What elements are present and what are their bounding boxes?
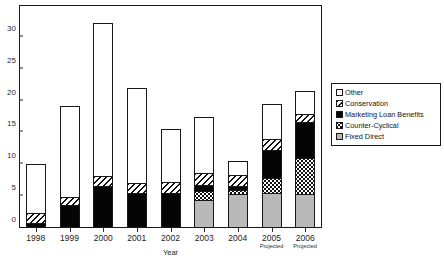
hatched-swatch [336,100,343,107]
legend-label: Marketing Loan Benefits [345,111,424,119]
legend-item: Fixed Direct [336,131,437,142]
bar-segment [61,107,79,198]
legend-item: Marketing Loan Benefits [336,109,437,120]
x-tick-label: 2000 [94,233,113,243]
legend-item: Counter-Cyclical [336,120,437,131]
bar-segment [162,183,180,194]
legend: OtherConservationMarketing Loan Benefits… [331,83,441,146]
white-swatch [336,89,343,96]
x-tick-label: 2004 [228,233,247,243]
bar-stack [93,23,113,228]
x-axis-title: Year [19,248,322,257]
bar-segment [94,24,112,177]
bar-segment [27,165,45,214]
bar-segment [27,224,45,227]
y-tick-label: 30 [7,25,16,33]
stacked-bar-chart: 05101520253035 1998199920002001200220032… [0,0,444,271]
x-tick-mark [204,228,205,232]
legend-label: Conservation [345,100,388,108]
bar-segment [128,89,146,184]
x-tick-label: 2003 [195,233,214,243]
bar-segment [128,194,146,227]
bar-segment [162,130,180,183]
bar-segment [195,174,213,185]
bar-segment [296,195,314,227]
x-tick-mark [70,228,71,232]
bar-segment [263,105,281,140]
bar-segment [128,184,146,194]
bar-stack [161,129,181,228]
bar-segment [296,92,314,115]
bar-stack [194,117,214,228]
bar-segment [263,140,281,151]
bar-segment [195,201,213,227]
gray-swatch [336,133,343,140]
bar-segment [296,159,314,195]
x-tick-label: 1999 [60,233,79,243]
legend-label: Other [345,89,363,97]
bar-segment [229,195,247,227]
x-tick-mark [238,228,239,232]
legend-label: Counter-Cyclical [345,122,399,130]
x-tick-mark [137,228,138,232]
legend-item: Other [336,87,437,98]
x-tick-label: 2002 [161,233,180,243]
y-tick-label: 0 [12,216,16,224]
y-tick-label: 10 [7,152,16,160]
x-tick-mark [36,228,37,232]
bar-stack [127,88,147,228]
x-tick-label: 2001 [127,233,146,243]
bar-stack [295,91,315,228]
y-tick-label: 35 [7,0,16,1]
dotted-swatch [336,122,343,129]
bar-segment [296,123,314,159]
legend-label: Fixed Direct [345,133,384,141]
bar-segment [94,177,112,186]
bar-segment [263,179,281,195]
bar-segment [27,214,45,224]
x-tick-mark [272,228,273,232]
bar-stack [262,104,282,228]
y-tick-label: 5 [12,184,16,192]
x-tick-mark [305,228,306,232]
bar-segment [229,162,247,176]
bar-segment [263,151,281,179]
legend-item: Conservation [336,98,437,109]
bar-segment [61,206,79,227]
bar-segment [229,176,247,188]
x-tick-label: 1998 [26,233,45,243]
bar-segment [195,192,213,201]
bar-stack [228,161,248,228]
bar-stack [60,106,80,228]
bar-segment [61,198,79,207]
bar-segment [296,115,314,124]
bar-segment [195,118,213,174]
bar-stack [26,164,46,228]
bar-segment [94,187,112,227]
y-tick-label: 25 [7,57,16,65]
bars-layer [19,5,322,228]
x-tick-mark [103,228,104,232]
x-tick-mark [171,228,172,232]
y-tick-label: 20 [7,89,16,97]
y-tick-label: 15 [7,120,16,128]
bar-segment [162,194,180,227]
plot-area: 05101520253035 [19,5,322,228]
black-swatch [336,111,343,118]
bar-segment [263,194,281,227]
